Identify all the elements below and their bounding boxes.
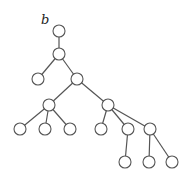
tree-node <box>53 48 65 60</box>
tree-nodes <box>14 25 178 168</box>
root-label: b <box>41 12 49 27</box>
tree-node <box>166 156 178 168</box>
tree-diagram: b <box>0 0 191 183</box>
tree-node <box>64 123 76 135</box>
tree-node <box>122 123 134 135</box>
tree-node <box>71 73 83 85</box>
tree-node <box>32 73 44 85</box>
tree-node <box>43 99 55 111</box>
tree-node <box>119 156 131 168</box>
tree-node <box>143 156 155 168</box>
tree-node <box>39 123 51 135</box>
tree-node <box>144 123 156 135</box>
tree-edges <box>20 31 172 162</box>
root-node <box>53 25 65 37</box>
tree-node <box>102 99 114 111</box>
tree-node <box>95 123 107 135</box>
tree-node <box>14 123 26 135</box>
